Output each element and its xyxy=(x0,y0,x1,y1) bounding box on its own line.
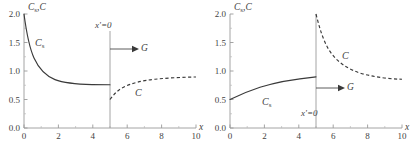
curve-cs-right xyxy=(230,77,316,100)
flow-arrow-icon xyxy=(110,46,139,52)
x-tick-label: 8 xyxy=(360,132,376,141)
x-tick-label: 2 xyxy=(50,132,66,141)
figure-container: Cs,C 2.0 1.5 1.0 0.5 0.0 0 2 4 6 8 10 x … xyxy=(0,0,412,149)
y-tick-label: 2.0 xyxy=(206,10,226,19)
y-tick-label: 1.5 xyxy=(206,39,226,48)
curve-c-right xyxy=(316,14,402,79)
curve-label-c-left: C xyxy=(135,88,142,98)
x-tick-label: 4 xyxy=(291,132,307,141)
y-axis-title-right: Cs,C xyxy=(234,3,252,13)
divider-label-right: x'=0 xyxy=(301,109,318,118)
y-tick-label: 1.5 xyxy=(0,39,20,48)
curve-label-cs-left: Cs xyxy=(35,38,44,48)
y-tick-label: 2.0 xyxy=(0,10,20,19)
curve-label-cs-right: Cs xyxy=(262,97,271,107)
y-tick-label: 0.5 xyxy=(0,96,20,105)
y-axis-title-left: Cs,C xyxy=(28,3,46,13)
y-tick-label: 0.5 xyxy=(206,96,226,105)
x-tick-label: 10 xyxy=(188,132,204,141)
chart-panel-left: Cs,C 2.0 1.5 1.0 0.5 0.0 0 2 4 6 8 10 x … xyxy=(0,0,206,149)
x-tick-label: 0 xyxy=(222,132,238,141)
x-tick-label: 4 xyxy=(85,132,101,141)
chart-panel-right: Cs,C 2.0 1.5 1.0 0.5 0.0 0 2 4 6 8 10 x … xyxy=(206,0,412,149)
x-axis-title-left: x xyxy=(199,123,203,133)
x-tick-label: 10 xyxy=(394,132,410,141)
flow-arrow-icon xyxy=(316,85,345,91)
x-tick-label: 0 xyxy=(16,132,32,141)
x-tick-label: 8 xyxy=(154,132,170,141)
y-axis-ticks xyxy=(230,14,234,128)
x-tick-label: 6 xyxy=(325,132,341,141)
x-tick-label: 2 xyxy=(256,132,272,141)
x-axis-title-right: x xyxy=(405,123,409,133)
curve-label-c-right: C xyxy=(342,51,349,61)
divider-label-left: x'=0 xyxy=(95,21,112,30)
flow-label-right: G xyxy=(347,83,354,93)
flow-label-left: G xyxy=(141,44,148,54)
y-tick-label: 1.0 xyxy=(206,67,226,76)
y-tick-label: 1.0 xyxy=(0,67,20,76)
x-tick-label: 6 xyxy=(119,132,135,141)
curve-c-left xyxy=(110,77,196,100)
chart-svg-right xyxy=(206,0,412,149)
